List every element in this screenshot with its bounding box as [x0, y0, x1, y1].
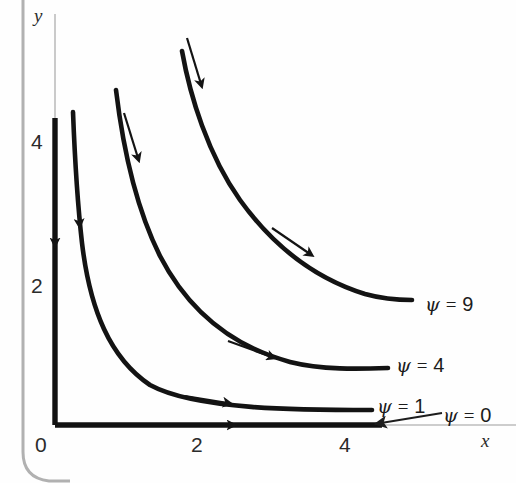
psi-4-flow-arrow-icon-2	[228, 341, 272, 357]
psi-equals-1: =	[398, 396, 409, 417]
x-tick-label-0: 0	[35, 434, 47, 455]
psi-9-streamline	[182, 51, 412, 300]
psi-symbol-9: ψ	[425, 293, 440, 315]
psi-4-annotation: ψ = 4	[396, 355, 445, 375]
plot-canvas	[0, 0, 516, 483]
x-tick-label-2: 2	[191, 434, 203, 455]
x-tick-label-4: 4	[339, 434, 351, 455]
page-edge	[23, 0, 70, 481]
psi-value-4: 4	[433, 354, 445, 376]
psi-1-annotation: ψ = 1	[377, 396, 426, 416]
psi-symbol-0: ψ	[443, 404, 458, 426]
psi-0-annotation: ψ = 0	[443, 405, 492, 425]
psi-value-9: 9	[462, 293, 474, 315]
psi-equals-0: =	[464, 405, 475, 426]
psi-value-1: 1	[414, 395, 426, 417]
psi-symbol-1: ψ	[377, 395, 392, 417]
psi-9-annotation: ψ = 9	[425, 294, 474, 314]
x-axis-label: x	[481, 431, 489, 450]
psi-equals-9: =	[446, 294, 457, 315]
psi-4-streamline	[116, 90, 388, 369]
streamline-figure: y x 0 2 4 4 2 ψ = 9 ψ = 4 ψ = 1 ψ = 0	[0, 0, 516, 483]
psi-1-streamline	[73, 112, 372, 410]
y-tick-label-4: 4	[31, 131, 43, 152]
y-axis-label: y	[34, 6, 42, 25]
psi-equals-4: =	[417, 355, 428, 376]
psi-symbol-4: ψ	[396, 354, 411, 376]
psi-value-0: 0	[480, 404, 492, 426]
y-tick-label-2: 2	[31, 275, 43, 296]
